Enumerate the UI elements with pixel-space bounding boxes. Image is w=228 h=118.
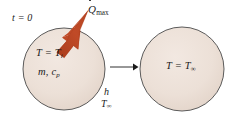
mass-specific-heat-label: m, cp <box>38 67 60 78</box>
diagram-canvas <box>0 0 228 118</box>
initial-temperature-label: T = Ti <box>36 48 63 59</box>
ambient-temperature-label: T∞ <box>101 99 111 110</box>
initial-time-label: t = 0 <box>12 13 33 23</box>
final-temperature-label: T = T∞ <box>166 61 196 72</box>
transition-arrow <box>110 64 139 71</box>
convection-coefficient-label: h <box>104 87 109 97</box>
heat-transfer-diagram: t = 0 Qmax T = Ti m, cp h T∞ T = T∞ <box>0 0 228 118</box>
heat-flux-label: Qmax <box>88 4 109 17</box>
sphere-initial-state <box>23 28 105 110</box>
